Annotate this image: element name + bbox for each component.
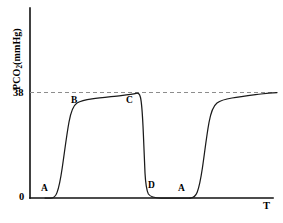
capnogram-chart-figure: PCO2(mmHg) 38 0 T A B C D A (0, 0, 283, 223)
capnogram-curve-cycle-1 (45, 93, 190, 198)
y-axis-title-subscript: 2 (16, 65, 24, 69)
x-axis-title: T (263, 201, 270, 212)
annotation-label-b: B (71, 96, 77, 106)
capnogram-curve-cycle-2 (190, 93, 277, 198)
y-axis-title: PCO2(mmHg) (12, 21, 22, 97)
annotation-label-c: C (126, 96, 133, 106)
annotation-label-d: D (148, 181, 155, 191)
annotation-label-a-first: A (41, 184, 48, 194)
y-axis-title-unit: (mmHg) (11, 28, 22, 65)
y-tick-label-38: 38 (13, 88, 24, 99)
y-tick-label-0: 0 (19, 192, 24, 203)
annotation-label-a-second: A (178, 184, 185, 194)
